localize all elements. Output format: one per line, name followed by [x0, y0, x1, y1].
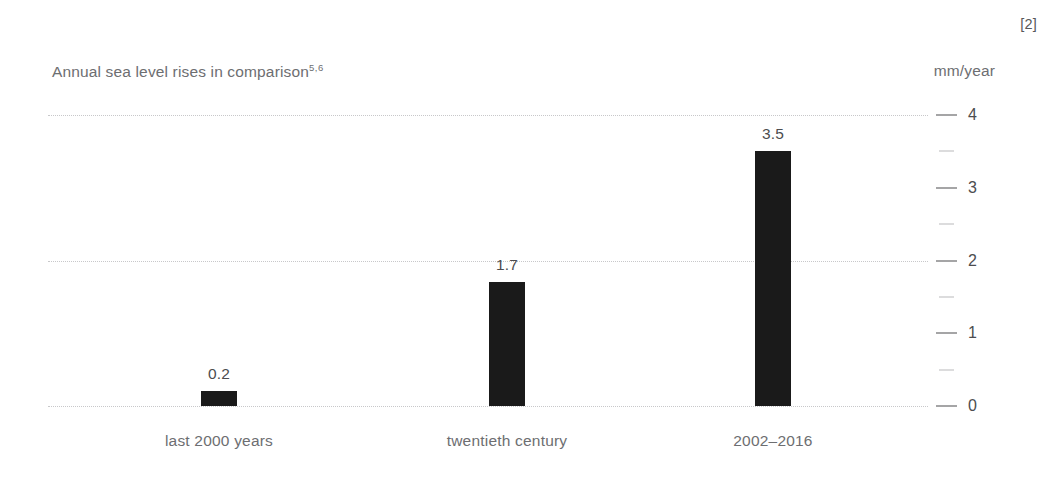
- bar: [755, 151, 791, 406]
- y-tick-major: [936, 333, 957, 334]
- y-tick-label: 3: [968, 179, 977, 197]
- y-tick-major: [936, 406, 957, 407]
- bar-value-label: 3.5: [728, 125, 818, 143]
- bar: [201, 391, 237, 406]
- chart-page: [2] Annual sea level rises in comparison…: [0, 0, 1051, 478]
- category-label: last 2000 years: [89, 432, 349, 450]
- y-tick-major: [936, 260, 957, 261]
- bar: [489, 282, 525, 406]
- y-tick-label: 0: [968, 397, 977, 415]
- chart-title-footnote: 5,6: [309, 62, 324, 73]
- y-tick-minor: [939, 296, 954, 297]
- chart-title-text: Annual sea level rises in comparison: [52, 63, 309, 80]
- category-label: 2002–2016: [643, 432, 903, 450]
- y-axis: 01234: [928, 115, 1048, 406]
- y-tick-minor: [939, 224, 954, 225]
- chart-title: Annual sea level rises in comparison5,6: [52, 62, 324, 81]
- bar-value-label: 1.7: [462, 256, 552, 274]
- y-tick-major: [936, 115, 957, 116]
- y-tick-label: 2: [968, 252, 977, 270]
- y-tick-label: 4: [968, 106, 977, 124]
- y-tick-minor: [939, 151, 954, 152]
- gridline-4: [48, 115, 928, 116]
- category-label: twentieth century: [377, 432, 637, 450]
- bar-value-label: 0.2: [174, 365, 264, 383]
- y-tick-label: 1: [968, 324, 977, 342]
- y-tick-major: [936, 187, 957, 188]
- gridline-0: [48, 406, 928, 407]
- y-axis-unit-label: mm/year: [934, 62, 995, 80]
- y-tick-minor: [939, 369, 954, 370]
- reference-marker: [2]: [1020, 16, 1037, 32]
